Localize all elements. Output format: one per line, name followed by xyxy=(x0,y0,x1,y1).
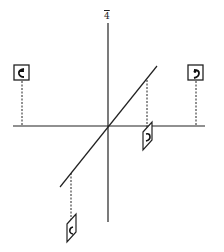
marker-diag-upper xyxy=(143,80,152,150)
square-marker-left xyxy=(14,65,29,80)
marker-diag-lower xyxy=(67,173,76,242)
marker-left xyxy=(14,65,29,126)
diagram-svg xyxy=(0,0,224,252)
comma-dot-right xyxy=(194,70,197,73)
diagram-canvas: 4 xyxy=(0,0,224,252)
axis-label-top: 4 xyxy=(104,12,110,21)
marker-right xyxy=(188,65,203,126)
